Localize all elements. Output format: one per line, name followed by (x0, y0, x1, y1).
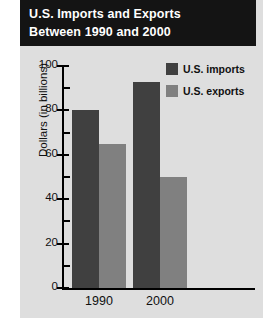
title-banner: U.S. Imports and Exports Between 1990 an… (20, 0, 256, 46)
y-tick-major (57, 65, 69, 67)
y-axis-line (62, 66, 64, 290)
chart-title-line-1: U.S. Imports and Exports (29, 5, 256, 23)
plot-area: 19902000 (62, 66, 255, 290)
y-tick-major (57, 109, 69, 111)
y-tick-minor (64, 87, 70, 89)
y-tick-label: 40 (32, 191, 58, 203)
chart-figure: U.S. Imports and Exports Between 1990 an… (0, 0, 275, 329)
y-tick-minor (64, 176, 70, 178)
y-tick-label: 20 (32, 236, 58, 248)
y-tick-minor (64, 265, 70, 267)
bar-1990-imports (72, 110, 99, 288)
bar-2000-exports (160, 177, 187, 288)
y-tick-label: 0 (32, 280, 58, 292)
chart-title-line-2: Between 1990 and 2000 (29, 23, 256, 41)
x-axis-line (62, 288, 255, 290)
y-tick-minor (64, 132, 70, 134)
y-tick-major (57, 198, 69, 200)
y-axis-title: Dollars (in billions) (37, 30, 49, 190)
y-tick-major (57, 287, 69, 289)
bar-2000-imports (133, 82, 160, 288)
y-tick-minor (64, 220, 70, 222)
y-tick-major (57, 243, 69, 245)
x-tick-label: 2000 (127, 294, 193, 308)
x-tick-label: 1990 (66, 294, 132, 308)
bar-1990-exports (99, 144, 126, 288)
y-tick-major (57, 154, 69, 156)
